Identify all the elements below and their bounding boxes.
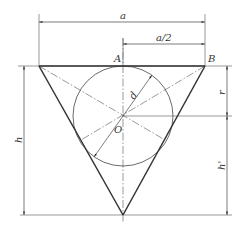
label-r: r	[216, 89, 227, 95]
label-half-a: a/2	[156, 32, 172, 43]
dimension-r: r	[216, 66, 227, 116]
dimension-h: h	[13, 66, 24, 215]
label-h: h	[13, 137, 24, 143]
label-point-b: B	[207, 53, 215, 64]
label-d: d	[127, 90, 140, 102]
dimension-h-prime: h'	[216, 116, 227, 215]
label-a: a	[120, 10, 126, 21]
triangle-outline	[39, 66, 205, 215]
triangle-incircle-diagram: a a/2 h r h' d A B O	[0, 0, 241, 233]
dimension-half-a: a/2	[123, 32, 205, 44]
label-center-o: O	[114, 124, 122, 135]
diagram-canvas: a a/2 h r h' d A B O	[0, 0, 241, 233]
label-point-a: A	[113, 53, 121, 64]
label-h-prime: h'	[216, 161, 227, 170]
dimension-a: a	[39, 10, 205, 22]
